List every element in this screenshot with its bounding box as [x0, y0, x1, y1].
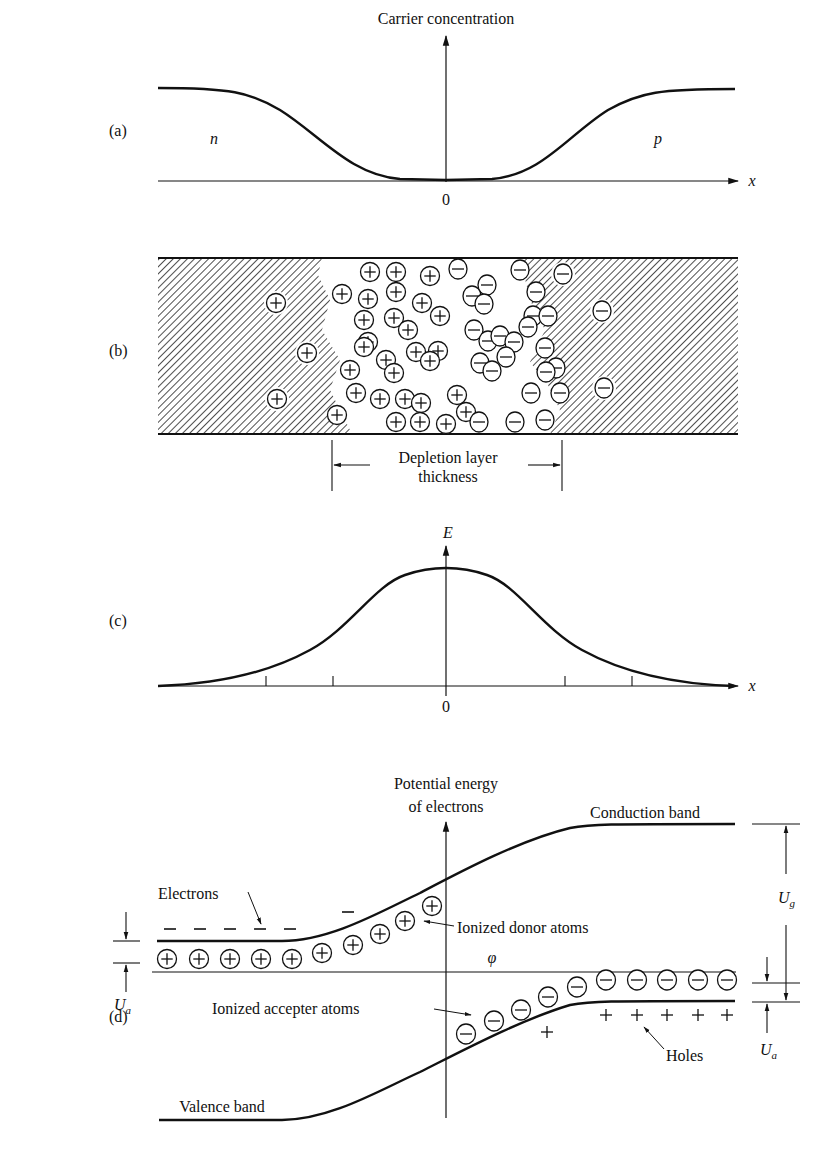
- carrier-concentration-axis-title: Carrier concentration: [378, 10, 514, 27]
- positive-ion-icon: [396, 912, 415, 931]
- ionized-donor-label: Ionized donor atoms: [457, 919, 589, 936]
- negative-ion-icon: [527, 282, 545, 302]
- positive-ion-icon: [298, 344, 317, 363]
- negative-ion-icon: [536, 410, 554, 430]
- negative-ion-icon: [519, 317, 537, 337]
- negative-ion-icon: [539, 987, 558, 1007]
- positive-ion-icon: [448, 386, 467, 405]
- negative-ion-icon: [475, 294, 493, 314]
- positive-ion-icon: [437, 415, 456, 434]
- electrons-pointer: [248, 892, 261, 924]
- panel-a-carrier-concentration: (a) Carrier concentration x 0 n p: [109, 10, 756, 208]
- negative-ion-icon: [628, 970, 647, 990]
- fermi-symbol: φ: [488, 949, 497, 967]
- negative-ion-icon: [497, 347, 515, 367]
- positive-ion-icon: [221, 950, 240, 969]
- negative-ion-icon: [506, 412, 524, 432]
- panel-b-depletion-layer: (b) Depletion layer thickness: [109, 258, 738, 491]
- positive-ion-icon: [355, 311, 374, 330]
- positive-ion-icon: [431, 307, 450, 326]
- negative-ion-icon: [512, 1000, 531, 1020]
- positive-ion-icon: [267, 294, 286, 313]
- positive-ion-icon: [347, 384, 366, 403]
- negative-ion-icon: [537, 362, 555, 382]
- positive-ion-icon: [252, 950, 271, 969]
- p-region-label: p: [653, 130, 662, 148]
- hole-plus-icon: [692, 1009, 704, 1021]
- holes-pointer: [644, 1027, 664, 1049]
- negative-ion-icon: [595, 378, 613, 398]
- potential-energy-title-line1: Potential energy: [394, 775, 498, 793]
- panel-c-electric-field: (c) E x 0: [109, 524, 756, 715]
- negative-ion-icon: [457, 1024, 476, 1044]
- positive-ion-icon: [385, 364, 404, 383]
- hole-plus-icon: [661, 1009, 673, 1021]
- positive-ion-icon: [387, 413, 406, 432]
- positive-ion-icon: [190, 950, 209, 969]
- negative-ion-icon: [539, 306, 557, 326]
- positive-ion-icon: [158, 950, 177, 969]
- panel-a-label: (a): [109, 122, 127, 140]
- e-axis-symbol: E: [442, 524, 453, 541]
- pn-junction-figure: (a) Carrier concentration x 0 n p (b): [0, 0, 832, 1154]
- positive-ion-icon: [361, 263, 380, 282]
- ug-ua-right-dimension: [752, 824, 800, 1033]
- negative-ion-icon: [536, 338, 554, 358]
- x-axis-symbol: x: [747, 677, 755, 694]
- positive-ion-icon: [268, 390, 287, 409]
- n-region-label: n: [210, 130, 218, 147]
- positive-ion-icon: [333, 285, 352, 304]
- negative-ion-icon: [718, 970, 737, 990]
- hole-plus-icon: [631, 1009, 643, 1021]
- negative-ion-icon: [593, 301, 611, 321]
- valence-band-label: Valence band: [179, 1098, 265, 1115]
- ua-right-symbol: Ua: [760, 1041, 778, 1061]
- negative-ion-icon: [470, 412, 488, 432]
- positive-ion-icon: [399, 321, 418, 340]
- ua-left-dimension: [113, 912, 140, 992]
- negative-ion-icon: [449, 259, 467, 279]
- positive-ion-icon: [412, 394, 431, 413]
- positive-ion-icon: [344, 936, 363, 955]
- positive-ion-icon: [421, 267, 440, 286]
- negative-ion-icon: [554, 264, 572, 284]
- negative-ion-icon: [597, 970, 616, 990]
- negative-ion-icon: [568, 977, 587, 997]
- x-axis-ticks: [266, 676, 632, 686]
- x-axis-symbol: x: [747, 172, 755, 189]
- negative-ion-icon: [511, 260, 529, 280]
- positive-ion-icon: [413, 294, 432, 313]
- n-region-hatch: [158, 258, 352, 434]
- positive-ion-icon: [341, 361, 360, 380]
- negative-ion-icon: [551, 383, 569, 403]
- holes-plus-signs: [541, 1009, 733, 1038]
- ionized-donor-ions: [158, 897, 442, 969]
- hole-plus-icon: [541, 1026, 553, 1038]
- positive-ion-icon: [313, 944, 332, 963]
- holes-label: Holes: [666, 1047, 703, 1064]
- negative-ion-icon: [485, 1011, 504, 1031]
- panel-b-label: (b): [109, 342, 128, 360]
- origin-label: 0: [442, 698, 450, 715]
- positive-ion-icon: [423, 897, 442, 916]
- positive-ion-icon: [387, 283, 406, 302]
- panel-c-label: (c): [109, 612, 127, 630]
- donor-pointer: [424, 921, 454, 926]
- depletion-label-line2: thickness: [418, 468, 478, 485]
- hole-plus-icon: [721, 1009, 733, 1021]
- positive-ion-icon: [411, 413, 430, 432]
- positive-ion-icon: [387, 263, 406, 282]
- positive-ion-icon: [371, 925, 390, 944]
- negative-ion-icon: [483, 361, 501, 381]
- electrons-label: Electrons: [158, 885, 218, 902]
- hole-plus-icon: [600, 1009, 612, 1021]
- origin-label: 0: [442, 191, 450, 208]
- positive-ion-icon: [355, 338, 374, 357]
- positive-ion-icon: [371, 390, 390, 409]
- positive-ion-icon: [328, 406, 347, 425]
- panel-d-band-diagram: (d) Potential energy of electrons Conduc…: [109, 775, 800, 1120]
- negative-ion-icon: [658, 970, 677, 990]
- depletion-label-line1: Depletion layer: [398, 449, 498, 467]
- ionized-accepter-label: Ionized accepter atoms: [212, 1000, 359, 1018]
- potential-energy-title-line2: of electrons: [408, 798, 483, 815]
